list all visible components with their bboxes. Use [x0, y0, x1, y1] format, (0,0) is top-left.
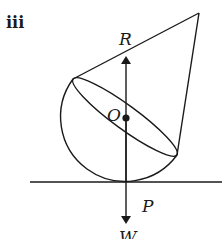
- centre-dot: [122, 114, 129, 121]
- part-label: iii: [6, 13, 24, 32]
- centre-label: O: [107, 105, 121, 125]
- cone-side-upper: [73, 13, 199, 79]
- cone-side-lower: [177, 13, 199, 155]
- weight-label: W: [119, 227, 138, 239]
- reaction-label: R: [118, 29, 132, 49]
- contact-point-label: P: [141, 196, 154, 216]
- toy-equilibrium-diagram: iii R O P W: [0, 0, 224, 239]
